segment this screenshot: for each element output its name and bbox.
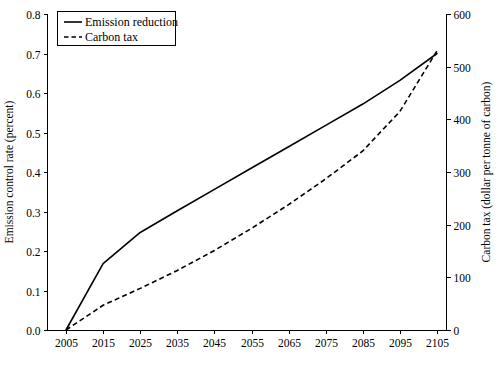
x-tick-label: 2085 bbox=[352, 337, 375, 349]
x-tick-label: 2035 bbox=[166, 337, 189, 349]
x-tick-label: 2025 bbox=[129, 337, 152, 349]
left-tick-label: 0.7 bbox=[26, 49, 41, 61]
legend-label-emission-reduction: Emission reduction bbox=[85, 15, 178, 29]
right-axis-ticks bbox=[447, 15, 451, 331]
left-tick-label: 0.4 bbox=[26, 167, 41, 179]
chart-figure: 0.00.10.20.30.40.50.60.70.8 Emission con… bbox=[0, 0, 500, 369]
right-tick-label: 0 bbox=[454, 325, 460, 337]
left-axis-tick-labels: 0.00.10.20.30.40.50.60.70.8 bbox=[26, 9, 41, 337]
chart-legend: Emission reduction Carbon tax bbox=[58, 12, 179, 46]
left-tick-label: 0.0 bbox=[26, 325, 41, 337]
x-axis-tick-labels: 2005201520252035204520552065207520852095… bbox=[55, 337, 449, 349]
x-tick-label: 2045 bbox=[203, 337, 226, 349]
right-tick-label: 300 bbox=[454, 167, 472, 179]
legend-label-carbon-tax: Carbon tax bbox=[85, 30, 138, 44]
series-emission-reduction bbox=[66, 54, 437, 331]
left-tick-label: 0.6 bbox=[26, 88, 41, 100]
x-tick-label: 2105 bbox=[426, 337, 449, 349]
x-tick-label: 2075 bbox=[315, 337, 338, 349]
left-axis-ticks bbox=[44, 15, 48, 331]
left-axis-title: Emission control rate (percent) bbox=[3, 100, 16, 243]
right-axis-tick-labels: 0100200300400500600 bbox=[454, 9, 472, 337]
x-tick-label: 2055 bbox=[241, 337, 264, 349]
right-axis-title: Carbon tax (dollar per tonne of carbon) bbox=[480, 81, 493, 262]
left-tick-label: 0.5 bbox=[26, 128, 41, 140]
x-tick-label: 2015 bbox=[92, 337, 115, 349]
x-tick-label: 2065 bbox=[278, 337, 301, 349]
data-series-group bbox=[66, 51, 437, 330]
left-tick-label: 0.8 bbox=[26, 9, 41, 21]
right-tick-label: 100 bbox=[454, 272, 472, 284]
x-tick-label: 2095 bbox=[389, 337, 412, 349]
left-tick-label: 0.2 bbox=[26, 246, 41, 258]
right-tick-label: 200 bbox=[454, 220, 472, 232]
right-tick-label: 400 bbox=[454, 114, 472, 126]
right-axis: 0100200300400500600 Carbon tax (dollar p… bbox=[447, 9, 494, 337]
right-tick-label: 500 bbox=[454, 62, 472, 74]
x-axis: 2005201520252035204520552065207520852095… bbox=[48, 330, 450, 349]
left-axis: 0.00.10.20.30.40.50.60.70.8 Emission con… bbox=[3, 9, 48, 337]
left-tick-label: 0.1 bbox=[26, 286, 41, 298]
left-tick-label: 0.3 bbox=[26, 207, 41, 219]
x-tick-label: 2005 bbox=[55, 337, 78, 349]
chart-plot-area: 0.00.10.20.30.40.50.60.70.8 Emission con… bbox=[0, 0, 500, 369]
right-tick-label: 600 bbox=[454, 9, 472, 21]
